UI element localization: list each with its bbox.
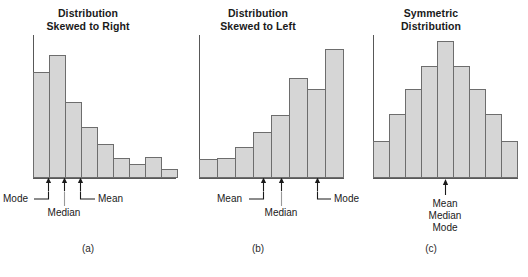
panel-skewed-right: Distribution Skewed to Right bbox=[0, 0, 176, 277]
panel-c-center-labels: Mean Median Mode bbox=[429, 198, 462, 234]
histogram-bar bbox=[485, 114, 502, 178]
histogram-bar bbox=[129, 164, 146, 178]
histogram-bar bbox=[437, 41, 454, 178]
histogram-bar bbox=[97, 144, 114, 178]
histogram-bar bbox=[325, 49, 344, 178]
histogram-bar bbox=[235, 147, 254, 178]
histogram-bar bbox=[453, 66, 470, 178]
histogram-bar bbox=[271, 115, 290, 178]
histogram-bar bbox=[289, 78, 308, 178]
panel-symmetric: Symmetric Distribution Mean Median Mode … bbox=[343, 0, 519, 277]
panel-a-caption: (a) bbox=[0, 243, 176, 254]
histogram-bar bbox=[145, 157, 162, 178]
panel-a-mean-label: Mean bbox=[98, 193, 123, 204]
histogram-bar bbox=[33, 72, 50, 178]
panel-a-plot bbox=[0, 28, 176, 178]
panel-a-x-axis bbox=[33, 178, 176, 179]
histogram-bar bbox=[421, 66, 438, 178]
histogram-bar bbox=[65, 102, 82, 178]
panel-b-mean-label: Mean bbox=[217, 193, 242, 204]
panel-skewed-left: Distribution Skewed to Left bbox=[170, 0, 346, 277]
panel-b-y-axis bbox=[199, 35, 200, 178]
panel-a-mode-label: Mode bbox=[3, 193, 28, 204]
panel-c-caption: (c) bbox=[343, 243, 519, 254]
histogram-bar bbox=[161, 169, 178, 178]
histogram-bar bbox=[469, 89, 486, 178]
histogram-bar bbox=[199, 159, 218, 178]
panel-b-plot bbox=[170, 28, 346, 178]
histogram-bar bbox=[253, 132, 272, 178]
panel-b-caption: (b) bbox=[170, 243, 346, 254]
panel-c-x-axis bbox=[373, 178, 518, 179]
histogram-bar bbox=[217, 158, 236, 178]
distribution-shapes-figure: Distribution Skewed to Right bbox=[0, 0, 528, 277]
histogram-bar bbox=[405, 89, 422, 178]
histogram-bar bbox=[501, 141, 518, 178]
panel-b-median-label: Median bbox=[265, 207, 298, 218]
histogram-bar bbox=[373, 141, 390, 178]
histogram-bar bbox=[307, 89, 326, 178]
histogram-bar bbox=[113, 158, 130, 178]
panel-b-x-axis bbox=[199, 178, 344, 179]
histogram-bar bbox=[49, 55, 66, 178]
panel-a-median-label: Median bbox=[48, 207, 81, 218]
histogram-bar bbox=[81, 127, 98, 178]
histogram-bar bbox=[389, 114, 406, 178]
panel-c-plot bbox=[343, 28, 519, 178]
